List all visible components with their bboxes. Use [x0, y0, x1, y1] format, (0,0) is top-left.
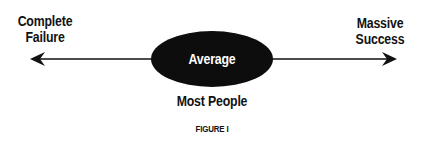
average-label: Average: [168, 51, 256, 67]
right-label-line2: Success: [345, 31, 415, 47]
massive-success-label: Massive Success: [345, 15, 415, 47]
complete-failure-label: Complete Failure: [10, 13, 80, 45]
left-label-line2: Failure: [10, 29, 80, 45]
left-label-line1: Complete: [10, 13, 80, 29]
figure-caption: FIGURE I: [177, 124, 247, 135]
most-people-label: Most People: [159, 93, 265, 109]
right-label-line1: Massive: [345, 15, 415, 31]
